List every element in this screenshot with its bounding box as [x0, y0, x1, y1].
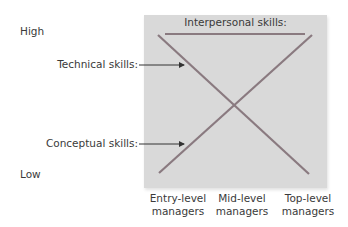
technical-skills-label: Technical skills: [30, 58, 138, 70]
category-top-level: Top-level managers [273, 192, 343, 218]
category-entry-level: Entry-level managers [143, 192, 213, 218]
conceptual-skills-label: Conceptual skills: [20, 137, 138, 149]
category-mid-level: Mid-level managers [207, 192, 277, 218]
